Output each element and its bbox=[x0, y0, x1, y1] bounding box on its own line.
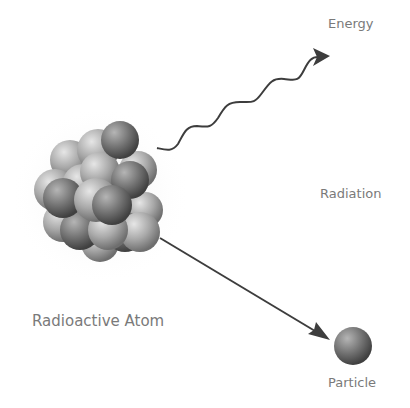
particle-sphere bbox=[334, 327, 372, 365]
radioactive-atom-label: Radioactive Atom bbox=[32, 312, 164, 330]
radiation-diagram bbox=[0, 0, 410, 408]
energy-wave-arrow bbox=[157, 57, 318, 150]
particle-arrowhead-icon bbox=[308, 322, 330, 340]
energy-label: Energy bbox=[328, 16, 374, 31]
radiation-label: Radiation bbox=[320, 186, 381, 201]
particle-arrow bbox=[160, 238, 320, 334]
particle-label: Particle bbox=[328, 375, 376, 390]
